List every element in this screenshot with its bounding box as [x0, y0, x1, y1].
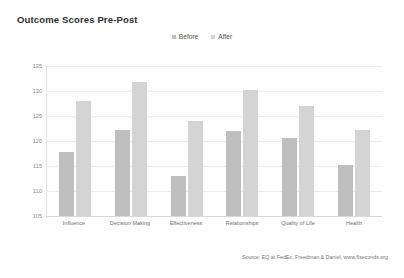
- x-tick-label: Quality of Life: [270, 220, 326, 226]
- chart-legend: Before After: [0, 33, 404, 40]
- bar[interactable]: [76, 101, 91, 216]
- legend-label-before: Before: [179, 33, 198, 40]
- bar[interactable]: [132, 82, 147, 216]
- y-tick-label: 130: [33, 88, 42, 94]
- y-tick-label: 115: [33, 163, 42, 169]
- y-tick-label: 135: [33, 63, 42, 69]
- y-tick-label: 105: [33, 213, 42, 219]
- bar-group: [159, 66, 215, 216]
- bar[interactable]: [282, 138, 297, 216]
- x-tick-label: Influence: [46, 220, 102, 226]
- bar[interactable]: [226, 131, 241, 217]
- legend-swatch-icon: [172, 35, 176, 39]
- bar[interactable]: [115, 130, 130, 216]
- plot-wrap: 105110115120125130135: [22, 66, 382, 216]
- legend-entry-before[interactable]: Before: [172, 33, 198, 40]
- x-axis-line: [46, 216, 382, 217]
- y-axis: 105110115120125130135: [22, 66, 44, 216]
- legend-swatch-icon: [211, 35, 215, 39]
- plot-area: [46, 66, 382, 216]
- bar[interactable]: [188, 121, 203, 216]
- x-axis: InfluenceDecision MakingEffectivenessRel…: [46, 220, 382, 226]
- legend-label-after: After: [218, 33, 232, 40]
- x-tick-label: Effectiveness: [158, 220, 214, 226]
- y-tick-label: 110: [33, 188, 42, 194]
- bar[interactable]: [338, 165, 353, 216]
- bar[interactable]: [59, 152, 74, 216]
- bar-group: [270, 66, 326, 216]
- source-note: Source: EQ at FedEx, Freedman & Daniel, …: [242, 254, 388, 260]
- x-tick-label: Relationships: [214, 220, 270, 226]
- bar[interactable]: [171, 176, 186, 216]
- bar-group: [47, 66, 103, 216]
- x-tick-label: Decision Making: [102, 220, 158, 226]
- y-tick-label: 125: [33, 113, 42, 119]
- bar-group: [326, 66, 382, 216]
- x-tick-label: Health: [326, 220, 382, 226]
- bar-group: [103, 66, 159, 216]
- bars-layer: [47, 66, 382, 216]
- y-tick-label: 120: [33, 138, 42, 144]
- legend-entry-after[interactable]: After: [211, 33, 232, 40]
- bar[interactable]: [299, 106, 314, 216]
- chart-card: Outcome Scores Pre-Post Before After 105…: [0, 0, 404, 278]
- bar-group: [214, 66, 270, 216]
- bar[interactable]: [243, 90, 258, 217]
- bar[interactable]: [355, 130, 370, 216]
- chart-title: Outcome Scores Pre-Post: [17, 14, 138, 25]
